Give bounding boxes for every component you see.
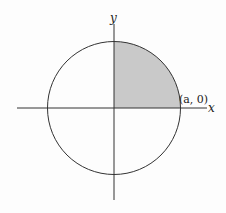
x-axis-label: x <box>208 101 215 115</box>
point-label: (a, 0) <box>179 93 208 106</box>
shaded-quarter-disk <box>114 42 181 109</box>
circle-quadrant-diagram: y x (a, 0) <box>0 0 226 213</box>
diagram-canvas: y x (a, 0) <box>0 0 226 213</box>
y-axis-label: y <box>109 11 117 25</box>
